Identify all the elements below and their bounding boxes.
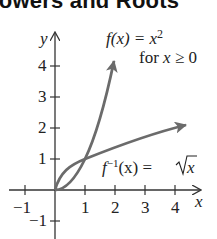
svg-text:f(x) = x2: f(x) = x2 — [106, 27, 163, 48]
svg-text:for x ≥ 0: for x ≥ 0 — [139, 48, 197, 67]
svg-text:2: 2 — [111, 198, 120, 217]
x-axis-label: x — [194, 192, 203, 211]
y-axis-label: y — [38, 29, 48, 48]
svg-text:3: 3 — [38, 87, 47, 106]
svg-text:1: 1 — [38, 149, 47, 168]
svg-text:1: 1 — [81, 198, 90, 217]
svg-text:−1: −1 — [29, 211, 47, 230]
svg-text:3: 3 — [141, 198, 150, 217]
svg-text:4: 4 — [171, 198, 180, 217]
svg-text:4: 4 — [38, 56, 47, 75]
svg-text:2: 2 — [38, 118, 47, 137]
svg-text:x: x — [186, 158, 195, 177]
svg-text:f−1(x) =: f−1(x) = — [102, 157, 152, 177]
function-inverse-graph: −1 1 2 3 4 −1 1 2 3 4 y x f(x) = x2 for … — [0, 0, 217, 239]
label-f-inverse-sqrt: f−1(x) = x — [102, 156, 197, 177]
y-tick-labels: −1 1 2 3 4 — [29, 56, 47, 230]
label-f-x-squared: f(x) = x2 for x ≥ 0 — [106, 27, 197, 67]
